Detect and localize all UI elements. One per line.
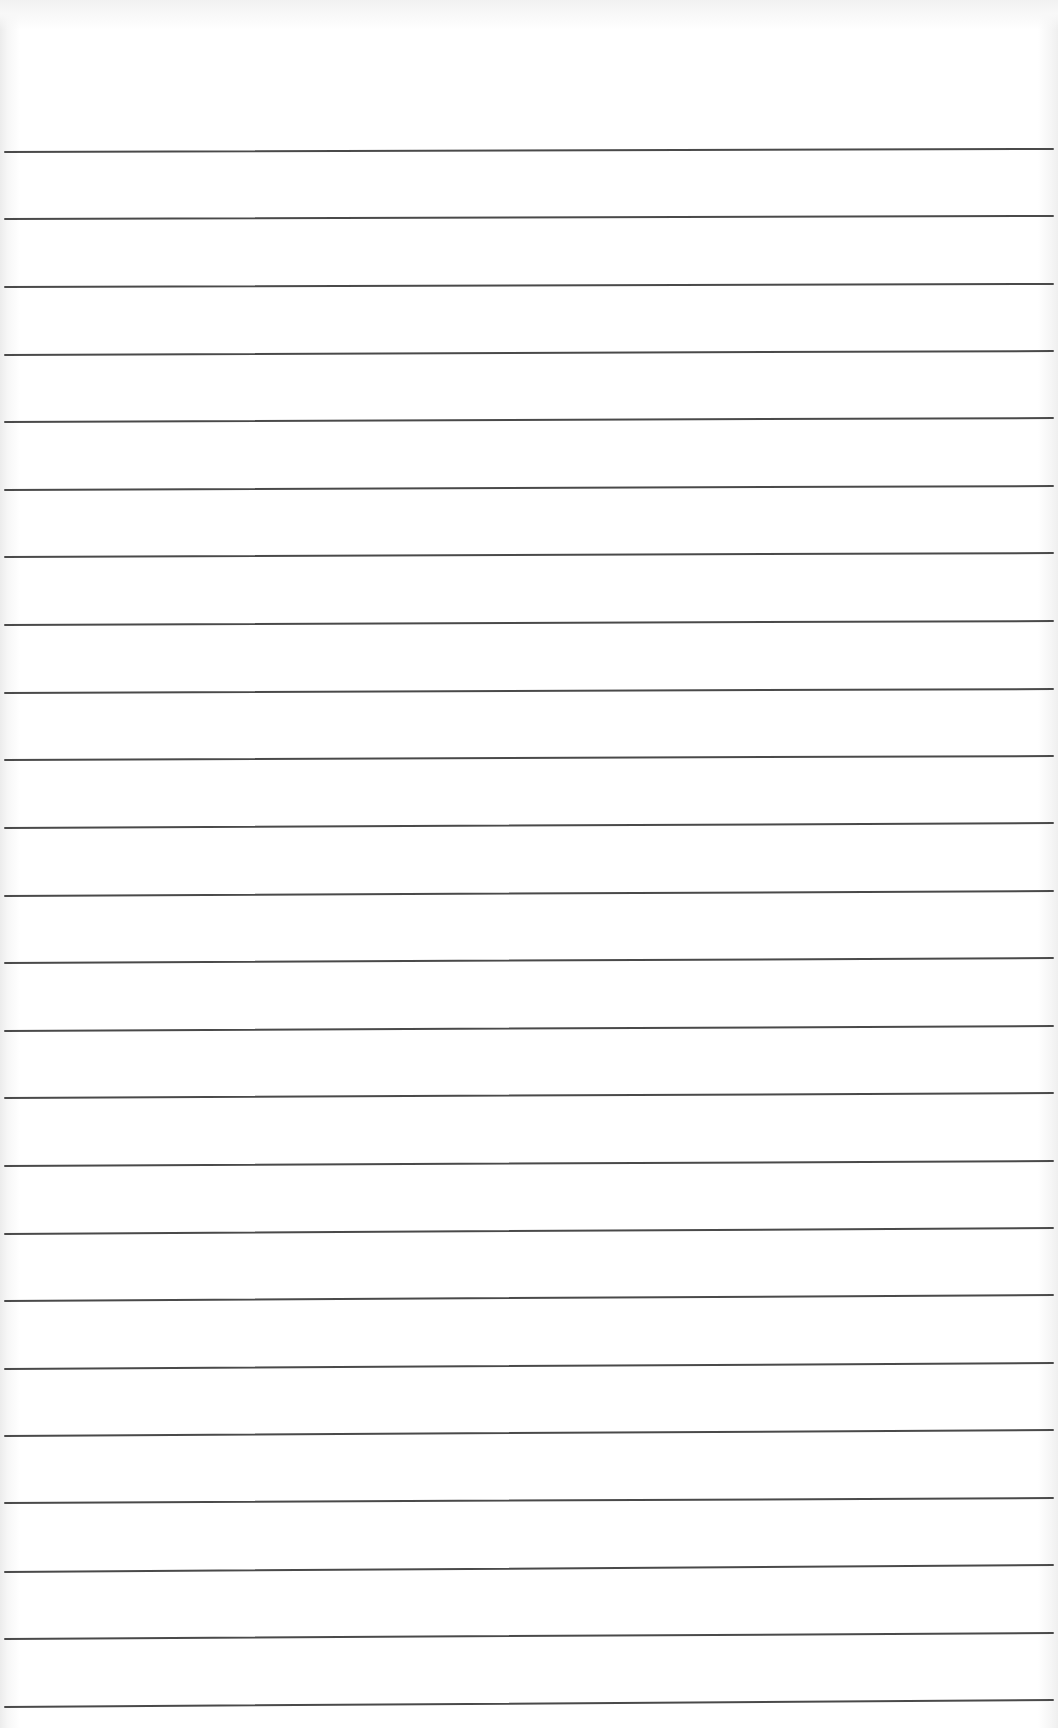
lined-paper-page — [0, 0, 1058, 1728]
ruled-line — [5, 689, 1053, 693]
ruled-line — [5, 1498, 1053, 1503]
ruled-line — [5, 1295, 1053, 1301]
ruled-lines — [0, 0, 1058, 1728]
ruled-line — [5, 1430, 1053, 1436]
ruled-line — [5, 149, 1053, 152]
ruled-line — [5, 1363, 1053, 1369]
ruled-line — [5, 823, 1053, 828]
ruled-line — [5, 1161, 1053, 1166]
ruled-line — [5, 891, 1053, 896]
ruled-line — [5, 216, 1053, 219]
ruled-line — [5, 284, 1053, 287]
ruled-line — [5, 418, 1053, 422]
ruled-line — [5, 1228, 1053, 1234]
ruled-line — [5, 351, 1053, 355]
ruled-line — [5, 1633, 1053, 1639]
ruled-line — [5, 1700, 1053, 1707]
ruled-line — [5, 621, 1053, 625]
ruled-line — [5, 1565, 1053, 1572]
ruled-line — [5, 958, 1053, 963]
ruled-line — [5, 486, 1053, 490]
ruled-line — [5, 553, 1053, 557]
ruled-line — [5, 756, 1053, 760]
ruled-line — [5, 1093, 1053, 1098]
ruled-line — [5, 1026, 1053, 1031]
